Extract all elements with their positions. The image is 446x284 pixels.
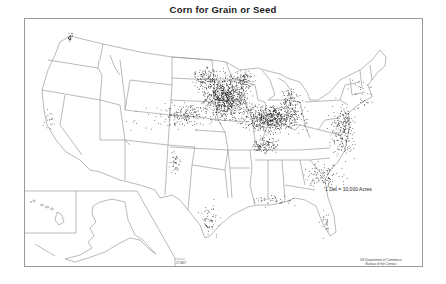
- us-outline: [42, 36, 386, 238]
- hawaii-inset-frame: [24, 191, 76, 233]
- credit-line-2: Bureau of the Census: [360, 263, 402, 267]
- hawaii-islands: [30, 200, 64, 225]
- map-code: 27-M07: [176, 261, 186, 265]
- alaska-inset-frame: [76, 191, 175, 267]
- corn-acreage-dots: [43, 33, 373, 239]
- state-boundaries: [42, 36, 386, 238]
- us-map: [0, 0, 446, 284]
- map-title: Corn for Grain or Seed: [0, 4, 446, 15]
- source-credit: US Department of Commerce Bureau of the …: [360, 259, 402, 266]
- inset-frames: [24, 191, 185, 267]
- dot-legend: 1 Dot = 10,000 Acres: [325, 186, 372, 192]
